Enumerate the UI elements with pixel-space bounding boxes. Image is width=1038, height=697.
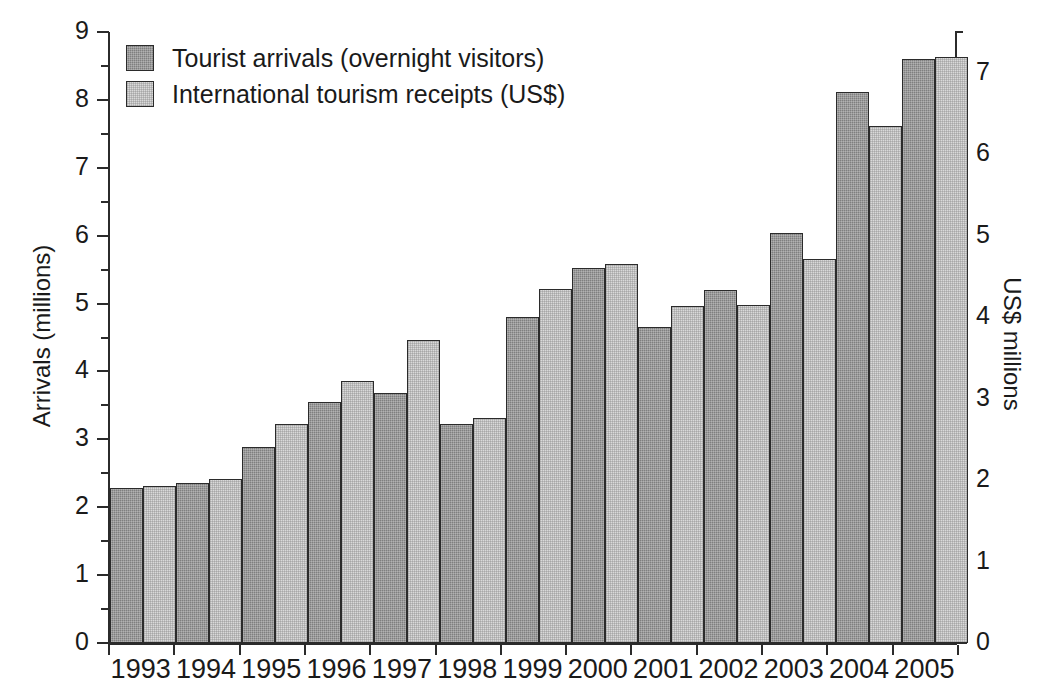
left-axis-major-tick xyxy=(97,235,109,237)
x-axis-tick xyxy=(957,645,959,655)
bar-arrivals xyxy=(506,317,539,643)
bar-receipts xyxy=(341,381,374,643)
x-axis-label-2003: 2003 xyxy=(761,652,826,692)
left-axis-tick-label: 9 xyxy=(49,18,89,43)
x-axis-label-1993: 1993 xyxy=(108,652,173,692)
bar-receipts xyxy=(803,259,836,643)
x-axis-label-2002: 2002 xyxy=(696,652,761,692)
bar-group xyxy=(704,32,770,643)
left-axis-tick-label: 8 xyxy=(49,86,89,111)
bar-arrivals xyxy=(770,233,803,643)
bar-group xyxy=(770,32,836,643)
left-axis-major-tick xyxy=(97,370,109,372)
bar-arrivals xyxy=(836,92,869,643)
right-axis-tick-label: 1 xyxy=(976,548,1016,573)
bar-group xyxy=(308,32,374,643)
bar-receipts xyxy=(209,479,242,643)
left-axis-minor-tick xyxy=(101,201,109,203)
right-axis-tick-label: 2 xyxy=(976,466,1016,491)
bar-chart: 0123456789 01234567 Arrivals (millions) … xyxy=(0,0,1038,697)
left-axis-minor-tick xyxy=(101,472,109,474)
bar-group xyxy=(440,32,506,643)
bar-group xyxy=(176,32,242,643)
x-axis-label-2001: 2001 xyxy=(631,652,696,692)
bar-group xyxy=(242,32,308,643)
bar-arrivals xyxy=(638,327,671,643)
bar-receipts xyxy=(143,486,176,644)
left-axis-major-tick xyxy=(97,438,109,440)
x-axis-label-2004: 2004 xyxy=(826,652,891,692)
left-axis-title: Arrivals (millions) xyxy=(28,206,56,466)
receipts-swatch-icon xyxy=(126,81,154,107)
left-axis-major-tick xyxy=(97,31,109,33)
legend-label-receipts: International tourism receipts (US$) xyxy=(172,80,565,108)
bar-arrivals xyxy=(110,488,143,643)
chart-legend: Tourist arrivals (overnight visitors) In… xyxy=(126,44,565,116)
left-axis-major-tick xyxy=(97,506,109,508)
right-axis-tick-label: 6 xyxy=(976,140,1016,165)
bar-arrivals xyxy=(440,424,473,643)
left-axis-minor-tick xyxy=(101,269,109,271)
bar-arrivals xyxy=(176,483,209,643)
legend-item-receipts: International tourism receipts (US$) xyxy=(126,80,565,108)
bar-arrivals xyxy=(242,447,275,643)
bar-receipts xyxy=(605,264,638,643)
left-axis-major-tick xyxy=(97,303,109,305)
bar-group xyxy=(836,32,902,643)
bar-group xyxy=(506,32,572,643)
x-axis-label-1994: 1994 xyxy=(173,652,238,692)
left-axis-minor-tick xyxy=(101,608,109,610)
x-axis-labels: 1993199419951996199719981999200020012002… xyxy=(108,652,957,692)
bar-group xyxy=(374,32,440,643)
right-axis-title: US$ millions xyxy=(998,234,1026,454)
x-axis-label-1998: 1998 xyxy=(435,652,500,692)
left-axis-minor-tick xyxy=(101,337,109,339)
right-axis-tick-label: 7 xyxy=(976,59,1016,84)
legend-label-arrivals: Tourist arrivals (overnight visitors) xyxy=(172,44,544,72)
left-axis-major-tick xyxy=(97,642,109,644)
bar-group xyxy=(572,32,638,643)
left-axis-minor-tick xyxy=(101,133,109,135)
bar-receipts xyxy=(737,305,770,643)
bar-receipts xyxy=(935,57,968,643)
right-axis-tick-label: 0 xyxy=(976,629,1016,654)
x-axis-label-1995: 1995 xyxy=(239,652,304,692)
bar-arrivals xyxy=(572,268,605,643)
bar-receipts xyxy=(671,306,704,643)
left-axis-minor-tick xyxy=(101,404,109,406)
left-axis-minor-tick xyxy=(101,540,109,542)
bar-receipts xyxy=(275,424,308,643)
left-axis-major-tick xyxy=(97,99,109,101)
bar-receipts xyxy=(539,289,572,643)
left-axis-tick-label: 2 xyxy=(49,493,89,518)
left-axis-tick-label: 7 xyxy=(49,154,89,179)
x-axis-label-2000: 2000 xyxy=(565,652,630,692)
bar-receipts xyxy=(473,418,506,643)
legend-item-arrivals: Tourist arrivals (overnight visitors) xyxy=(126,44,565,72)
left-axis-tick-label: 0 xyxy=(49,629,89,654)
bar-arrivals xyxy=(374,393,407,644)
arrivals-swatch-icon xyxy=(126,45,154,71)
bar-arrivals xyxy=(902,59,935,643)
bar-arrivals xyxy=(308,402,341,643)
bar-receipts xyxy=(407,340,440,643)
left-axis-major-tick xyxy=(97,574,109,576)
bar-receipts xyxy=(869,126,902,643)
bar-arrivals xyxy=(704,290,737,643)
left-axis-major-tick xyxy=(97,167,109,169)
x-axis-label-1997: 1997 xyxy=(369,652,434,692)
plot-area xyxy=(110,32,955,643)
left-axis-tick-label: 1 xyxy=(49,561,89,586)
bar-group xyxy=(638,32,704,643)
x-axis-line xyxy=(108,643,957,645)
x-axis-label-2005: 2005 xyxy=(892,652,957,692)
bar-group xyxy=(110,32,176,643)
x-axis-label-1999: 1999 xyxy=(500,652,565,692)
left-axis-minor-tick xyxy=(101,65,109,67)
x-axis-label-1996: 1996 xyxy=(304,652,369,692)
bar-group xyxy=(902,32,968,643)
